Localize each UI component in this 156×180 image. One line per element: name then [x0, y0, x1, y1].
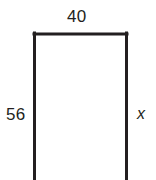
right-side-unknown-label: x	[137, 106, 145, 122]
left-side-length-label: 56	[6, 106, 25, 123]
top-side-length-label: 40	[67, 8, 86, 25]
rectangle-diagram: 40 56 x	[0, 0, 156, 180]
rectangle-outline-graphic	[0, 0, 156, 180]
diagram-background	[0, 0, 156, 180]
